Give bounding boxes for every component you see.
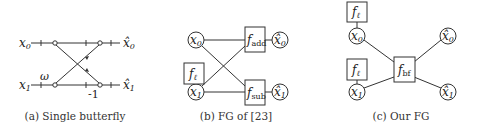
panel-c-factor-graph (347, 2, 456, 100)
caption-b: (b) FG of [23] (200, 110, 272, 122)
input-x0-label: x0 (19, 36, 31, 51)
twiddle-omega-label: ω (40, 70, 49, 83)
input-x1-label: x1 (19, 78, 31, 93)
output-x0hat-label: x̂0 (123, 36, 135, 51)
caption-c: (c) Our FG (373, 110, 430, 122)
output-x1hat-label: x̂1 (123, 78, 135, 93)
caption-a: (a) Single butterfly (25, 110, 126, 122)
figure-canvas: x0 x1 x̂0 x̂1 ω -1 (a) Single butterfly … (0, 0, 481, 134)
panel-a-labels: x0 x1 x̂0 x̂1 ω -1 (a) Single butterfly (19, 36, 135, 122)
negation-label: -1 (88, 88, 99, 101)
